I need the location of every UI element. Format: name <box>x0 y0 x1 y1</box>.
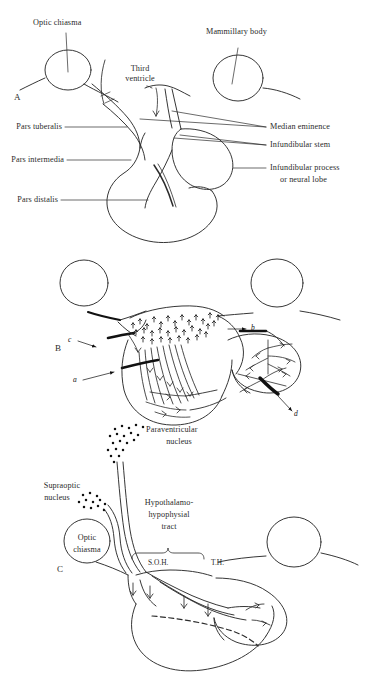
leader-median-eminence <box>140 119 266 127</box>
mammillary-body-shape <box>213 55 263 101</box>
label-optic-chiasma-c-line2: chiasma <box>62 545 112 555</box>
label-supraoptic-line2: nucleus <box>32 493 82 503</box>
label-paraventricular-line1: Paraventricular <box>146 425 198 435</box>
leader-infundibular-stem <box>174 138 266 145</box>
figure-line-art <box>0 0 369 679</box>
supraoptic-stipple <box>78 492 107 512</box>
optic-chiasma-shape-b <box>60 260 108 306</box>
arrow-c <box>78 341 96 347</box>
label-b-d: d <box>294 409 298 418</box>
pars-distalis-shape-b <box>122 340 222 425</box>
label-th: T.H. <box>211 558 224 567</box>
neural-lobe-shape-c <box>214 578 287 645</box>
label-median-eminence: Median eminence <box>270 122 330 132</box>
panel-letter-a: A <box>14 92 21 102</box>
label-supraoptic-line1: Supraoptic <box>34 481 90 491</box>
label-b-b: b <box>251 323 255 332</box>
anatomy-figure: A Optic chiasma Mammillary body Third ve… <box>0 0 369 679</box>
label-third-ventricle-line2: ventricle <box>114 74 166 84</box>
pars-distalis-shape <box>107 148 217 243</box>
residual-cleft-dashed <box>152 616 258 646</box>
mammillary-body-shape-c <box>267 517 321 567</box>
paraventricular-stipple <box>107 424 145 464</box>
label-paraventricular-line2: nucleus <box>146 437 212 447</box>
label-infundibular-stem: Infundibular stem <box>270 140 330 150</box>
label-pars-intermedia: Pars intermedia <box>0 155 64 165</box>
label-mammillary-body-a: Mammillary body <box>206 27 267 37</box>
label-pars-tuberalis: Pars tuberalis <box>0 122 62 132</box>
label-optic-chiasma-c-line1: Optic <box>68 533 106 543</box>
label-third-ventricle-line1: Third <box>118 64 162 74</box>
label-infundibular-process-line2: or neural lobe <box>280 175 327 185</box>
panel-b-art <box>60 259 340 425</box>
panel-letter-b: B <box>55 343 61 353</box>
label-soh: S.O.H. <box>148 558 168 567</box>
label-tract-line3: tract <box>136 522 202 532</box>
label-tract-line2: hypophysial <box>136 510 202 520</box>
label-b-c: c <box>68 335 71 344</box>
label-pars-distalis: Pars distalis <box>0 195 58 205</box>
label-optic-chiasma-a: Optic chiasma <box>33 18 81 28</box>
panel-letter-c: C <box>57 564 63 574</box>
arrow-d <box>278 396 292 411</box>
label-b-a: a <box>73 375 77 384</box>
label-tract-line1: Hypothalamo- <box>136 498 202 508</box>
arrow-a <box>83 372 114 380</box>
mammillary-body-shape-b <box>251 259 303 307</box>
label-infundibular-process-line1: Infundibular process <box>270 163 340 173</box>
